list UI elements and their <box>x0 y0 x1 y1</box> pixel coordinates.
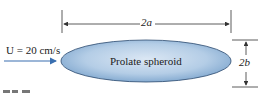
height-label: 2b <box>239 56 250 68</box>
body-label: Prolate spheroid <box>110 55 182 67</box>
flow-velocity-label: U = 20 cm/s <box>6 44 60 56</box>
length-label: 2a <box>141 16 152 28</box>
